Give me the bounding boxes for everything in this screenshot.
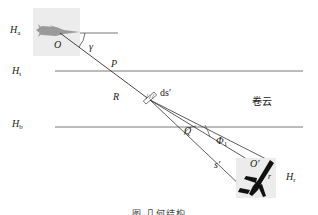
label-Hr: Hr <box>286 172 296 184</box>
figure-caption: 图 几何结构 <box>0 207 318 215</box>
label-Hb: Hb <box>12 119 23 131</box>
label-point-O-prime: O′ <box>250 159 259 169</box>
label-ds-prime: ds′ <box>160 88 171 98</box>
label-point-P: P <box>111 59 117 69</box>
label-point-O: O <box>54 40 61 50</box>
scatter-ray-lower <box>150 100 243 188</box>
scatter-ray-upper <box>150 100 270 161</box>
incident-path <box>60 33 150 100</box>
label-point-r: r <box>268 173 271 181</box>
label-point-R: R <box>113 92 119 102</box>
label-s-prime: s′ <box>214 160 220 170</box>
label-phi: Φ1 <box>216 136 227 148</box>
label-gamma: γ <box>89 42 93 52</box>
label-Ha: Ha <box>10 25 20 37</box>
label-point-Q: Q <box>184 126 191 136</box>
label-cirrus-cloud: 卷云 <box>252 93 272 108</box>
diagram-canvas: Ha Ht Hb Hr O γ P R ds′ Q Φ1 s′ O′ r 卷云 … <box>0 0 318 215</box>
label-Ht: Ht <box>12 66 21 78</box>
